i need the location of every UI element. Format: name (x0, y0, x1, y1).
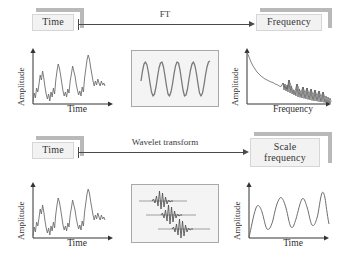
wavelet-output-ylabel: Amplitude (232, 182, 242, 240)
wavelet-input-ylabel: Amplitude (16, 182, 26, 240)
wavelet-packets-icon (132, 185, 217, 241)
wavelet-target-label-line1: Scale (274, 142, 297, 153)
sine-wave-icon (132, 51, 217, 105)
fourier-target-node: Frequency (256, 8, 332, 34)
wavelet-source-label: Time (32, 142, 74, 159)
wavelet-target-label-line2: frequency (264, 153, 306, 164)
fourier-input-plot: Amplitude Time (14, 46, 120, 118)
fourier-target-label: Frequency (256, 14, 322, 31)
wavelet-input-xlabel: Time (50, 238, 104, 248)
wavelet-input-plot: Amplitude Time (14, 180, 120, 252)
wavelet-transform-label: Wavelet transform (110, 137, 220, 147)
fourier-input-ylabel: Amplitude (16, 48, 26, 106)
fourier-output-plot: Amplitude Frequency (228, 46, 338, 118)
wavelet-source-node: Time (32, 136, 84, 162)
wavelet-arrow-head (243, 149, 249, 155)
wavelet-target-label: Scale frequency (250, 138, 320, 167)
fourier-output-ylabel: Amplitude (230, 48, 240, 106)
figure-canvas: Time FT Frequency Amplitude Time Amplitu… (0, 0, 340, 259)
fourier-kernel-box (131, 50, 219, 107)
fourier-source-label: Time (32, 14, 74, 31)
wavelet-target-node: Scale frequency (250, 132, 332, 170)
fourier-source-node: Time (32, 8, 84, 34)
fourier-output-xlabel: Frequency (258, 104, 328, 114)
wavelet-arrow-line (78, 152, 244, 153)
fourier-input-xlabel: Time (50, 104, 104, 114)
fourier-transform-label: FT (140, 9, 190, 19)
wavelet-output-plot: Amplitude Time (230, 180, 338, 252)
wavelet-output-xlabel: Time (266, 238, 320, 248)
fourier-arrow-head (249, 21, 255, 27)
fourier-arrow-line (78, 24, 250, 25)
wavelet-kernel-box (131, 184, 219, 243)
